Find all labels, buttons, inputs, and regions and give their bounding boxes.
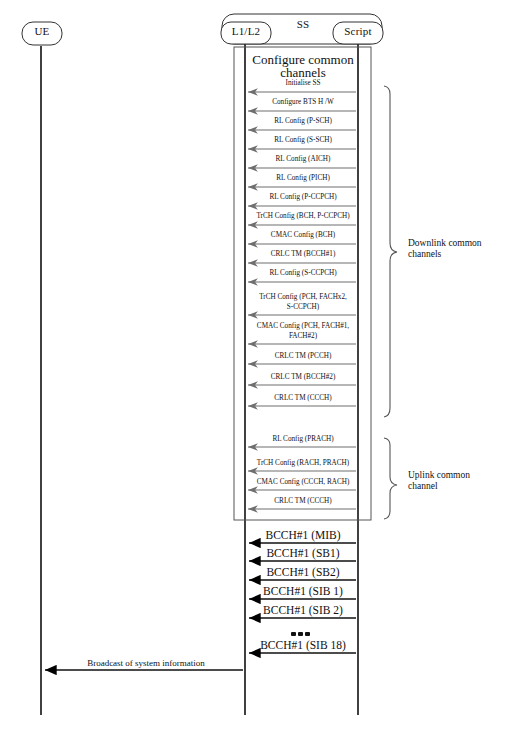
message-label: RL Config (S-CCPCH): [269, 270, 336, 278]
actor-label-ss: SS: [297, 19, 310, 31]
broadcast-message-label: BCCH#1 (SIB 18): [260, 639, 346, 651]
broadcast-message-label: BCCH#1 (SIB 2): [263, 604, 343, 616]
sequence-diagram-canvas: UE L1/L2 Script SS Configure common chan…: [0, 0, 513, 736]
message-label: RL Config (PICH): [276, 175, 330, 183]
message-label: Configure BTS H /W: [272, 99, 334, 107]
message-label: RL Config (AICH): [276, 156, 331, 164]
bracket-downlink: [384, 86, 397, 417]
message-label: CMAC Config (BCH): [271, 232, 335, 240]
final-broadcast-label: Broadcast of system information: [87, 659, 205, 668]
message-label: CMAC Config (PCH, FACH#1,: [257, 323, 349, 331]
broadcast-message-label: BCCH#1 (SB2): [266, 566, 339, 578]
message-label: TrCH Config (PCH, FACHx2,: [259, 294, 347, 302]
broadcast-message-label: BCCH#1 (SB1): [266, 547, 339, 559]
bracket-label-downlink-line1: Downlink common: [408, 238, 482, 249]
message-label-cont: FACH#2): [289, 333, 317, 341]
message-label-cont: S-CCPCH): [287, 304, 319, 312]
bracket-label-downlink-line2: channels: [408, 249, 441, 260]
frame-title-line2: channels: [280, 66, 325, 80]
message-label: CRLC TM (CCCH): [274, 395, 331, 403]
message-label: CMAC Config (CCCH, RACH): [257, 479, 350, 487]
bracket-label-uplink-line1: Uplink common: [408, 470, 470, 481]
broadcast-arrows: [249, 543, 356, 653]
message-label: CRLC TM (BCCH#2): [271, 374, 336, 382]
message-label: CRLC TM (CCCH): [274, 498, 331, 506]
ellipsis-dots: [291, 632, 310, 636]
message-label: TrCH Config (BCH, P-CCPCH): [256, 213, 349, 221]
message-label: RL Config (S-SCH): [274, 137, 332, 145]
broadcast-message-label: BCCH#1 (SIB 1): [263, 585, 343, 597]
message-label: CRLC TM (BCCH#1): [271, 251, 336, 259]
message-label: CRLC TM (PCCH): [275, 353, 332, 361]
message-label: RL Config (P-CCPCH): [269, 194, 336, 202]
actor-label-script[interactable]: Script: [344, 26, 371, 38]
actor-head-boxes: [22, 14, 383, 45]
message-label: RL Config (PRACH): [272, 436, 333, 444]
message-label: Initialise SS: [286, 80, 321, 88]
bracket-uplink: [384, 438, 397, 519]
bracket-label-uplink-line2: channel: [408, 481, 438, 492]
actor-label-ue[interactable]: UE: [34, 26, 49, 38]
message-label: RL Config (P-SCH): [274, 118, 332, 126]
bracket-group: [384, 86, 397, 519]
diagram-vector-layer: [0, 0, 513, 736]
broadcast-message-label: BCCH#1 (MIB): [265, 529, 340, 541]
actor-label-l1l2[interactable]: L1/L2: [232, 26, 261, 38]
message-label: TrCH Config (RACH, PRACH): [257, 460, 349, 468]
